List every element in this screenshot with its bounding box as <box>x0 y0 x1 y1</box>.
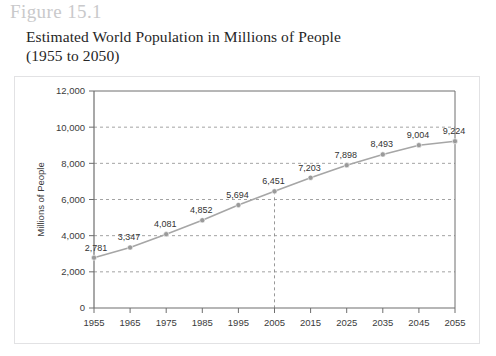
data-marker-1975 <box>164 232 169 237</box>
figure-number-label: Figure 15.1 <box>10 1 102 23</box>
data-label-2035: 8,493 <box>371 139 394 149</box>
data-label-1975: 4,081 <box>154 219 177 229</box>
data-marker-1995 <box>236 202 241 207</box>
data-marker-2045 <box>416 143 421 148</box>
data-marker-2005 <box>272 189 277 194</box>
line-chart: 02,0004,0006,0008,00010,00012,000 195519… <box>0 76 496 344</box>
x-tick-label-1955: 1955 <box>83 317 104 328</box>
data-label-1995: 5,694 <box>226 190 249 200</box>
x-axis-ticks-group: 1955196519751985199520052015202520352045… <box>83 308 465 328</box>
data-label-1965: 3,347 <box>118 232 141 242</box>
figure-title-line-2: (1955 to 2050) <box>26 46 466 65</box>
y-tick-label-6000: 6,000 <box>61 194 85 205</box>
x-tick-label-1985: 1985 <box>192 317 213 328</box>
data-label-1955: 2,781 <box>85 243 108 253</box>
y-tick-label-0: 0 <box>80 302 85 313</box>
figure-title: Estimated World Population in Millions o… <box>26 27 466 65</box>
data-marker-1965 <box>128 245 133 250</box>
data-label-2025: 7,898 <box>334 150 357 160</box>
x-tick-label-2005: 2005 <box>264 317 285 328</box>
data-label-2045: 9,004 <box>407 130 430 140</box>
y-tick-label-4000: 4,000 <box>61 230 85 241</box>
y-axis-title: Millions of People <box>35 162 46 236</box>
data-marker-1985 <box>200 218 205 223</box>
y-axis-title-group: Millions of People <box>35 162 46 236</box>
y-axis-ticks-group: 02,0004,0006,0008,00010,00012,000 <box>56 85 94 313</box>
data-label-1985: 4,852 <box>190 205 213 215</box>
x-tick-label-1965: 1965 <box>120 317 141 328</box>
data-marker-2035 <box>380 152 385 157</box>
figure-title-line-1: Estimated World Population in Millions o… <box>26 27 466 46</box>
y-tick-label-12000: 12,000 <box>56 85 85 96</box>
x-tick-label-2025: 2025 <box>336 317 357 328</box>
y-tick-label-10000: 10,000 <box>56 122 85 133</box>
data-label-2055: 9,224 <box>443 126 466 136</box>
figure-page: Figure 15.1 Estimated World Population i… <box>0 0 496 356</box>
x-tick-label-1975: 1975 <box>156 317 177 328</box>
data-marker-2025 <box>344 163 349 168</box>
chart-canvas: 02,0004,0006,0008,00010,00012,000 195519… <box>0 76 496 344</box>
x-tick-label-2055: 2055 <box>444 317 465 328</box>
y-tick-label-2000: 2,000 <box>61 266 85 277</box>
x-tick-label-1995: 1995 <box>228 317 249 328</box>
x-tick-label-2045: 2045 <box>408 317 429 328</box>
x-tick-label-2015: 2015 <box>300 317 321 328</box>
data-label-2005: 6,451 <box>262 176 285 186</box>
data-marker-2015 <box>308 175 313 180</box>
x-tick-label-2035: 2035 <box>372 317 393 328</box>
y-tick-label-8000: 8,000 <box>61 158 85 169</box>
data-marker-2055 <box>452 139 457 144</box>
data-label-2015: 7,203 <box>298 163 321 173</box>
data-marker-1955 <box>91 255 96 260</box>
